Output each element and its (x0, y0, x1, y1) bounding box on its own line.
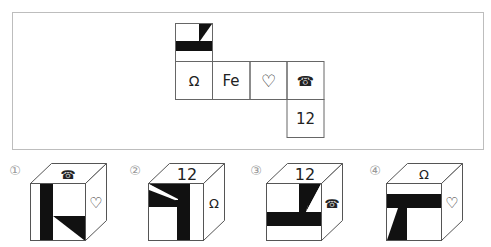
right-symbol: ♡ (89, 194, 102, 212)
option-label: ③ (250, 163, 262, 178)
net-symbol-phone: ☎ (297, 73, 314, 89)
net-symbol-12: 12 (296, 110, 315, 128)
option-3[interactable]: ③ 12 ☎ (250, 163, 342, 241)
net-symbol-omega: Ω (189, 73, 200, 89)
option-label: ④ (369, 163, 381, 178)
net-symbol-fe: Fe (222, 72, 239, 90)
net-cell-top (176, 24, 213, 62)
top-symbol: ☎ (61, 168, 76, 182)
right-symbol: Ω (209, 196, 219, 211)
top-symbol: 12 (177, 165, 197, 184)
net-symbol-heart: ♡ (261, 71, 276, 91)
option-2[interactable]: ② 12 Ω (129, 163, 224, 241)
top-symbol: 12 (295, 165, 315, 184)
option-label: ② (129, 163, 141, 178)
top-symbol: Ω (419, 167, 429, 182)
question-frame (13, 13, 484, 150)
right-symbol: ☎ (325, 197, 340, 211)
pattern-bar (176, 41, 212, 51)
option-4[interactable]: ④ Ω ♡ (369, 163, 462, 241)
option-1[interactable]: ① ☎ ♡ (9, 163, 106, 241)
diagram-canvas: Ω Fe ♡ ☎ 12 ① ☎ ♡ ② 12 Ω ③ (0, 0, 491, 247)
option-label: ① (9, 163, 21, 178)
right-symbol: ♡ (445, 194, 458, 212)
